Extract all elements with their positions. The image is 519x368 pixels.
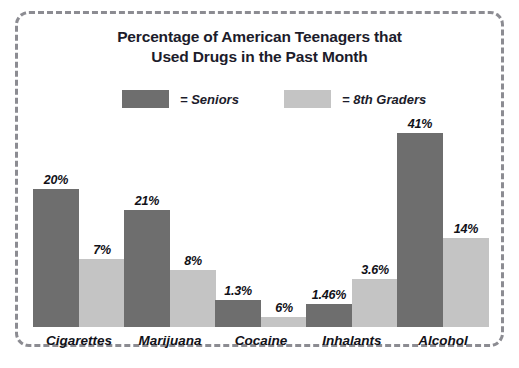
- bar-alcohol-seniors: 41%: [397, 133, 443, 327]
- bar-marijuana-8th-graders: 8%: [170, 270, 216, 327]
- bar-rect: [170, 270, 216, 327]
- bars-row: 20%7%: [33, 117, 125, 327]
- bar-inhalants-8th-graders: 3.6%: [352, 279, 398, 327]
- bar-group-cocaine: 1.3%6%Cocaine: [215, 117, 307, 327]
- bar-rect: [397, 133, 443, 327]
- bar-rect: [352, 279, 398, 327]
- bar-cocaine-seniors: 1.3%: [215, 300, 261, 327]
- bars-row: 41%14%: [397, 117, 489, 327]
- bar-value-label: 7%: [93, 243, 111, 257]
- bar-marijuana-seniors: 21%: [124, 210, 170, 327]
- bar-cigarettes-8th-graders: 7%: [79, 259, 125, 327]
- bars-row: 21%8%: [124, 117, 216, 327]
- bar-rect: [306, 304, 352, 327]
- category-label-cigarettes: Cigarettes: [33, 333, 125, 348]
- bar-value-label: 3.6%: [361, 263, 389, 277]
- bar-value-label: 1.3%: [224, 284, 252, 298]
- chart-plot-area: 20%7%Cigarettes21%8%Marijuana1.3%6%Cocai…: [0, 0, 519, 368]
- bar-value-label: 41%: [408, 117, 432, 131]
- bar-rect: [79, 259, 125, 327]
- bars-row: 1.46%3.6%: [306, 117, 398, 327]
- bar-cigarettes-seniors: 20%: [33, 189, 79, 327]
- bar-rect: [124, 210, 170, 327]
- bar-value-label: 21%: [135, 194, 159, 208]
- bar-value-label: 1.46%: [312, 288, 346, 302]
- category-label-cocaine: Cocaine: [215, 333, 307, 348]
- bar-rect: [33, 189, 79, 327]
- bar-value-label: 6%: [275, 301, 293, 315]
- bar-rect: [215, 300, 261, 327]
- bar-value-label: 8%: [184, 254, 202, 268]
- category-label-marijuana: Marijuana: [124, 333, 216, 348]
- category-label-alcohol: Alcohol: [397, 333, 489, 348]
- category-label-inhalants: Inhalants: [306, 333, 398, 348]
- bar-group-inhalants: 1.46%3.6%Inhalants: [306, 117, 398, 327]
- bar-alcohol-8th-graders: 14%: [443, 238, 489, 327]
- bar-value-label: 20%: [44, 173, 68, 187]
- bar-group-cigarettes: 20%7%Cigarettes: [33, 117, 125, 327]
- bar-rect: [261, 317, 307, 327]
- bar-cocaine-8th-graders: 6%: [261, 317, 307, 327]
- bar-group-alcohol: 41%14%Alcohol: [397, 117, 489, 327]
- bar-inhalants-seniors: 1.46%: [306, 304, 352, 327]
- bar-rect: [443, 238, 489, 327]
- bar-group-marijuana: 21%8%Marijuana: [124, 117, 216, 327]
- bar-value-label: 14%: [454, 222, 478, 236]
- bars-row: 1.3%6%: [215, 117, 307, 327]
